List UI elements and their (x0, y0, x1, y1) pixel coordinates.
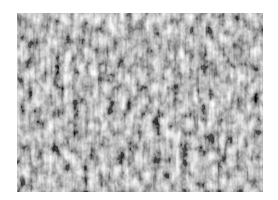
image-canvas: Grayscale noise-like texture (0, 0, 278, 200)
texture-image (17, 13, 263, 192)
noise-texture (17, 13, 263, 192)
